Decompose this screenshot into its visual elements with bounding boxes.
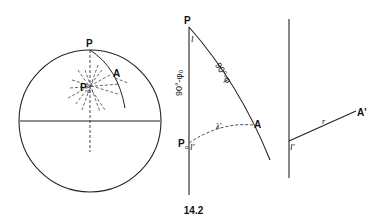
point-a-prime-label: A' bbox=[357, 107, 367, 118]
arc-lambda-label: λ' bbox=[215, 122, 221, 131]
side-left-label: 90°-φ₀ bbox=[174, 70, 184, 96]
projection-panel: A' r l' bbox=[289, 19, 367, 178]
side-right-label: 90°-φ bbox=[213, 61, 233, 85]
side-arc bbox=[189, 27, 270, 160]
origin-label: P bbox=[178, 138, 185, 149]
origin-label: P bbox=[80, 82, 87, 93]
figure-caption: 14.2 bbox=[0, 205, 387, 216]
pole-label: P bbox=[86, 38, 93, 49]
triangle-panel: P l 90°-φ 90°-φ₀ λ' A P o l' bbox=[174, 15, 270, 195]
point-a-label: A bbox=[113, 68, 120, 79]
point-a-label: A bbox=[254, 119, 261, 130]
angle-l-prime-label: l' bbox=[190, 142, 196, 152]
diagram-canvas: P A P o P l 90°-φ 90°-φ₀ λ' A P o l' A' … bbox=[0, 0, 387, 224]
origin-subscript: o bbox=[185, 144, 189, 150]
radius-line bbox=[289, 111, 356, 141]
globe-panel: P A P o bbox=[19, 38, 161, 192]
pole-label: P bbox=[184, 15, 191, 26]
angle-l-prime-label: l' bbox=[290, 142, 296, 152]
angle-l-label: l bbox=[191, 34, 194, 44]
